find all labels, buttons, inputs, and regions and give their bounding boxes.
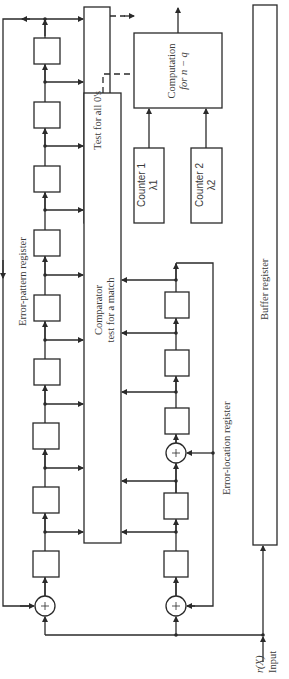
counter-2-label-line2: λ2: [206, 154, 218, 216]
comparator-label-line2: test for a match: [105, 260, 117, 360]
decoder-block-diagram: [0, 0, 289, 679]
shift-register-cell: [34, 102, 60, 128]
error-pattern-register: [33, 17, 83, 635]
comparator-label: Comparator test for a match: [93, 260, 117, 360]
counter-2-label: Counter 2 λ2: [194, 154, 218, 216]
comparator-label-line1: Comparator: [93, 260, 105, 360]
shift-register-cell: [34, 38, 60, 64]
computation-label: Computation for n − q: [166, 38, 190, 104]
xor-gate-icon: [35, 596, 55, 616]
input-label: Input: [267, 651, 279, 673]
input-bus: [45, 546, 265, 662]
counter-2-label-line1: Counter 2: [194, 154, 206, 216]
xor-gate-icon: [166, 443, 186, 463]
shift-register-cell: [34, 230, 60, 256]
shift-register-cell: [33, 487, 59, 513]
shift-register-cell: [164, 551, 188, 577]
shift-register-cell: [165, 350, 189, 376]
counter-1-label: Counter 1 λ1: [136, 154, 160, 216]
shift-register-cell: [164, 493, 188, 519]
counter-1-label-line2: λ1: [148, 154, 160, 216]
shift-register-cell: [34, 359, 60, 385]
test-all-zeros-label: Test for all 0's: [92, 91, 104, 150]
shift-register-cell: [33, 551, 59, 577]
error-location-register: [122, 263, 215, 635]
computation-label-line2: for n − q: [178, 38, 190, 104]
error-pattern-register-label: Error-pattern register: [17, 237, 29, 326]
shift-register-cell: [165, 408, 189, 434]
shift-register-cell: [165, 292, 189, 318]
counter-1-label-line1: Counter 1: [136, 154, 148, 216]
error-location-register-label: Error-location register: [221, 402, 233, 495]
shift-register-cell: [34, 295, 60, 321]
buffer-register-label: Buffer register: [259, 259, 271, 320]
computation-label-line1: Computation: [166, 38, 178, 104]
input-signal-label: r(X): [254, 656, 266, 674]
shift-register-cell: [33, 423, 59, 449]
xor-gate-icon: [166, 596, 186, 616]
shift-register-cell: [34, 166, 60, 192]
